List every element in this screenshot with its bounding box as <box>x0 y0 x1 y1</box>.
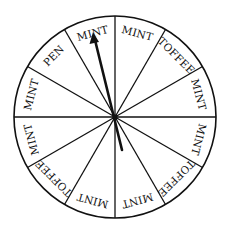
spinner-wheel: MINTTOFFEEMINTMINTTOFFEEMINTMINTTOFFEEMI… <box>0 0 228 234</box>
wheel-hub <box>113 115 118 120</box>
